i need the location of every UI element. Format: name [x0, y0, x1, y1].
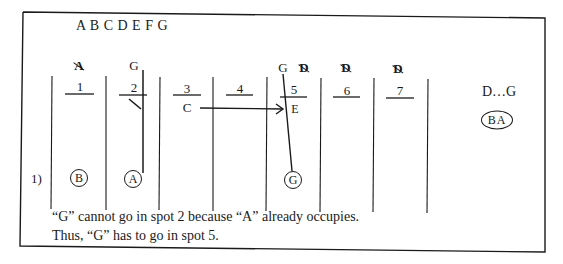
column-dividers	[51, 76, 428, 213]
diagram-lines	[0, 0, 563, 264]
slot-number-5: 5	[291, 83, 298, 96]
slot3-letter-c: C	[183, 101, 192, 114]
circled-g: G	[284, 171, 302, 189]
note-line-1: “G” cannot go in spot 2 because “A” alre…	[52, 210, 359, 224]
note-line-2: Thus, “G” has to go in spot 5.	[52, 229, 219, 243]
diagram-canvas: A B C D E F G A G G D D D 1 2 3 4 5 6 7 …	[0, 0, 563, 264]
slot6-above-crossed-d: D	[341, 61, 350, 74]
slot2-above-g: G	[129, 59, 138, 72]
slot5-above-crossed-d: D	[299, 61, 308, 74]
slot-number-1: 1	[77, 80, 84, 93]
side-rule-d-g: D…G	[482, 85, 516, 99]
side-group-ba: BA	[481, 111, 513, 130]
slot-number-4: 4	[237, 82, 244, 95]
row-label: 1)	[31, 172, 42, 185]
circled-b: B	[70, 169, 88, 187]
slot2-slash	[129, 99, 141, 109]
slot-number-6: 6	[344, 84, 351, 97]
letters-header: A B C D E F G	[76, 19, 168, 33]
slot-number-2: 2	[131, 81, 138, 94]
slot-number-7: 7	[397, 84, 404, 97]
slot5-letter-e: E	[291, 103, 298, 115]
slot1-above-crossed-a: A	[74, 59, 83, 72]
slot5-above-g: G	[278, 61, 287, 74]
slot7-above-crossed-d: D	[393, 62, 402, 75]
circled-a: A	[124, 170, 142, 188]
arrow-c-to-e	[200, 108, 282, 109]
slot-number-3: 3	[184, 82, 191, 95]
